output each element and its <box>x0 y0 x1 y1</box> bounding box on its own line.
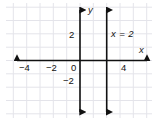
x-tick-label-neg2: −2 <box>46 63 57 73</box>
axes-layer <box>0 0 156 121</box>
coordinate-plane-figure: y x 0 −4 −2 4 2 −2 x = 2 <box>0 0 156 121</box>
x-axis-label: x <box>139 45 144 55</box>
y-axis-label: y <box>88 5 93 15</box>
origin-label: 0 <box>71 63 76 73</box>
equation-label: x = 2 <box>111 29 134 39</box>
y-tick-label-2: 2 <box>69 30 74 40</box>
x-tick-label-neg4: −4 <box>19 63 30 73</box>
y-tick-label-neg2: −2 <box>63 76 74 86</box>
x-tick-label-4: 4 <box>121 63 126 73</box>
